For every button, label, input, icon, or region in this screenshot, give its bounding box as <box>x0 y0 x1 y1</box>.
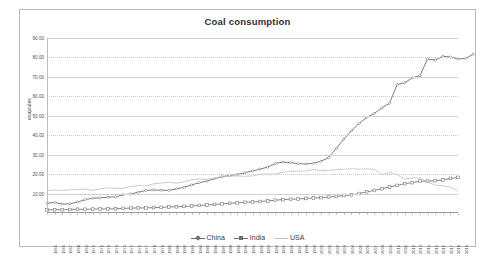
legend-item-usa[interactable]: USA <box>274 234 304 241</box>
x-axis-tick-mark <box>253 213 254 215</box>
y-axis-tick-label: 20.00 <box>33 172 45 177</box>
y-axis-tick-label: 30.00 <box>33 152 45 157</box>
data-point <box>297 162 300 165</box>
x-axis-tick-label: 2005 <box>358 245 363 254</box>
x-axis-tick-mark <box>169 213 170 215</box>
x-axis-tick-mark <box>138 213 139 215</box>
x-axis-tick-mark <box>283 213 284 215</box>
x-axis-tick-mark <box>146 213 147 215</box>
data-point <box>419 180 422 183</box>
x-axis-tick-mark <box>214 213 215 215</box>
x-axis-tick-label: 2011 <box>403 245 408 254</box>
x-axis-tick-mark <box>70 213 71 215</box>
x-axis-tick-mark <box>222 213 223 215</box>
data-point <box>61 208 64 211</box>
x-axis-tick-mark <box>313 213 314 215</box>
x-axis-tick-label: 1994 <box>274 245 279 254</box>
y-axis-tick-label: 50.00 <box>33 113 45 118</box>
x-axis-tick-label: 1977 <box>145 245 150 254</box>
gridline <box>47 174 458 175</box>
data-point <box>167 189 170 192</box>
x-axis-tick-label: 1993 <box>266 245 271 254</box>
x-axis-tick-mark <box>329 213 330 215</box>
x-axis-tick-mark <box>199 213 200 215</box>
data-point <box>99 196 102 199</box>
data-point <box>259 168 262 171</box>
data-point <box>259 200 262 203</box>
x-axis-tick-label: 1971 <box>99 245 104 254</box>
x-axis-tick-label: 2009 <box>388 245 393 254</box>
data-point <box>129 207 132 210</box>
data-point <box>434 179 437 182</box>
x-axis-tick-label: 1989 <box>236 245 241 254</box>
x-axis-tick-mark <box>367 213 368 215</box>
x-axis-tick-mark <box>62 213 63 215</box>
data-point <box>160 206 163 209</box>
gridline <box>47 77 458 78</box>
data-point <box>152 206 155 209</box>
data-point <box>205 180 208 183</box>
x-axis-tick-label: 2014 <box>426 245 431 254</box>
data-point <box>107 208 110 211</box>
x-axis-tick-label: 2003 <box>342 245 347 254</box>
x-axis-tick-mark <box>85 213 86 215</box>
x-axis-tick-label: 2004 <box>350 245 355 254</box>
x-axis-tick-label: 1984 <box>198 245 203 254</box>
data-point <box>221 203 224 206</box>
plot-area: 10.0020.0030.0040.0050.0060.0070.0080.00… <box>47 38 458 213</box>
x-axis-tick-label: 1990 <box>243 245 248 254</box>
x-axis-tick-mark <box>230 213 231 215</box>
x-axis-tick-label: 1975 <box>129 245 134 254</box>
data-point <box>282 198 285 201</box>
x-axis-tick-label: 1999 <box>312 245 317 254</box>
data-point <box>297 198 300 201</box>
x-axis-tick-label: 2017 <box>449 245 454 254</box>
x-axis-tick-label: 1991 <box>251 245 256 254</box>
data-point <box>213 203 216 206</box>
data-point <box>335 195 338 198</box>
gridline <box>47 116 458 117</box>
x-axis-tick-label: 1979 <box>160 245 165 254</box>
x-axis-tick-label: 1966 <box>61 245 66 254</box>
legend-item-china[interactable]: China <box>191 234 225 241</box>
x-axis-tick-label: 1968 <box>76 245 81 254</box>
x-axis-tick-mark <box>420 213 421 215</box>
legend-label-india: India <box>250 234 265 241</box>
data-point <box>266 200 269 203</box>
x-axis-tick-mark <box>192 213 193 215</box>
x-axis-tick-mark <box>154 213 155 215</box>
legend-item-india[interactable]: India <box>234 234 265 241</box>
x-axis-tick-label: 1980 <box>167 245 172 254</box>
legend-label-china: China <box>207 234 225 241</box>
gridline <box>47 96 458 97</box>
data-point <box>198 181 201 184</box>
x-axis-tick-label: 1969 <box>84 245 89 254</box>
data-point <box>381 187 384 190</box>
data-point <box>373 189 376 192</box>
x-axis-tick-label: 1986 <box>213 245 218 254</box>
data-point <box>289 198 292 201</box>
data-point <box>274 199 277 202</box>
x-axis-tick-mark <box>275 213 276 215</box>
x-axis-tick-label: 1983 <box>190 245 195 254</box>
data-point <box>388 186 391 189</box>
x-axis-tick-label: 2007 <box>373 245 378 254</box>
x-axis-tick-mark <box>268 213 269 215</box>
x-axis-tick-label: 2002 <box>335 245 340 254</box>
data-point <box>244 201 247 204</box>
legend-marker-usa-icon <box>274 235 288 241</box>
x-axis-tick-label: 1970 <box>91 245 96 254</box>
data-point <box>183 186 186 189</box>
x-axis-tick-label: 2001 <box>327 245 332 254</box>
x-axis-tick-label: 1978 <box>152 245 157 254</box>
x-axis-tick-mark <box>397 213 398 215</box>
x-axis-tick-mark <box>47 213 48 215</box>
data-point <box>53 201 56 204</box>
x-axis-tick-label: 1976 <box>137 245 142 254</box>
x-axis-tick-mark <box>412 213 413 215</box>
x-axis-tick-mark <box>116 213 117 215</box>
y-axis-line <box>47 38 48 213</box>
x-axis-tick-label: 2010 <box>396 245 401 254</box>
x-axis-tick-mark <box>108 213 109 215</box>
data-point <box>205 204 208 207</box>
